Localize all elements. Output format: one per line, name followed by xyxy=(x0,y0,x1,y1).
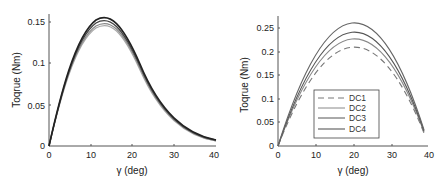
left-x-label: γ (deg) xyxy=(116,165,147,176)
svg-text:0.15: 0.15 xyxy=(27,17,45,27)
svg-text:10: 10 xyxy=(86,150,96,160)
svg-text:0.1: 0.1 xyxy=(32,58,45,68)
svg-text:30: 30 xyxy=(387,150,397,160)
svg-text:0.05: 0.05 xyxy=(256,117,274,127)
left-plot: 0 0.05 0.1 0.15 0 10 20 30 40 γ (deg) To… xyxy=(11,14,219,176)
svg-text:0.2: 0.2 xyxy=(261,47,274,57)
figure: 0 0.05 0.1 0.15 0 10 20 30 40 γ (deg) To… xyxy=(0,0,443,186)
svg-text:0: 0 xyxy=(40,141,45,151)
svg-text:40: 40 xyxy=(209,150,219,160)
svg-text:0.1: 0.1 xyxy=(261,94,274,104)
svg-text:40: 40 xyxy=(424,150,434,160)
left-curve-2 xyxy=(49,23,216,146)
svg-text:0: 0 xyxy=(275,150,280,160)
left-curves xyxy=(49,18,216,146)
right-y-label: Toqrue (Nm) xyxy=(239,57,250,113)
left-curve-3 xyxy=(49,21,216,146)
legend-dc1: DC1 xyxy=(349,93,366,103)
legend: DC1 DC2 DC3 DC4 xyxy=(314,90,379,138)
svg-text:20: 20 xyxy=(127,150,137,160)
left-curve-1 xyxy=(49,25,216,146)
right-plot: 0 0.05 0.1 0.15 0.2 0.25 0 10 20 30 40 γ… xyxy=(239,16,434,176)
legend-dc3: DC3 xyxy=(349,113,366,123)
legend-dc2: DC2 xyxy=(349,103,366,113)
right-y-ticks: 0 0.05 0.1 0.15 0.2 0.25 xyxy=(256,23,280,151)
left-y-ticks: 0 0.05 0.1 0.15 xyxy=(27,17,51,151)
right-x-label: γ (deg) xyxy=(337,165,368,176)
svg-text:0.15: 0.15 xyxy=(256,70,274,80)
svg-text:0: 0 xyxy=(46,150,51,160)
svg-text:10: 10 xyxy=(311,150,321,160)
svg-text:20: 20 xyxy=(349,150,359,160)
left-curve-4 xyxy=(49,18,216,146)
svg-text:0.05: 0.05 xyxy=(27,101,45,111)
left-y-label: Toqrue (Nm) xyxy=(11,52,22,108)
svg-text:0.25: 0.25 xyxy=(256,23,274,33)
svg-text:0: 0 xyxy=(269,141,274,151)
legend-dc4: DC4 xyxy=(349,124,366,134)
svg-text:30: 30 xyxy=(169,150,179,160)
